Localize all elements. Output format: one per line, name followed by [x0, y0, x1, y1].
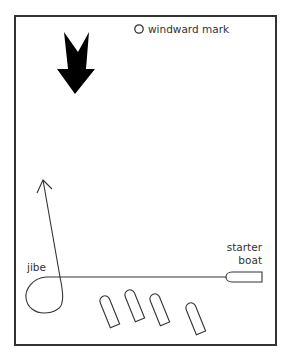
wind-direction-arrow-icon [57, 32, 95, 94]
boat-icon [184, 301, 205, 334]
windward-mark-label: windward mark [148, 23, 230, 35]
circle-mark-icon [135, 25, 143, 33]
jibe-label: jibe [26, 261, 46, 273]
boat-icon [148, 292, 169, 325]
starter-boat-label-line1: starter [227, 241, 263, 253]
starter-boat: starter boat [226, 241, 263, 282]
windward-mark: windward mark [135, 23, 230, 35]
boats-group [98, 288, 205, 334]
boat-icon [123, 288, 144, 321]
diagram-frame [15, 16, 276, 345]
race-start-diagram: windward mark jibe starter boat [0, 0, 282, 358]
course-path-arrow-icon [37, 180, 63, 302]
starter-boat-icon [226, 272, 262, 282]
starter-boat-label-line2: boat [238, 254, 262, 266]
boat-icon [98, 294, 119, 327]
